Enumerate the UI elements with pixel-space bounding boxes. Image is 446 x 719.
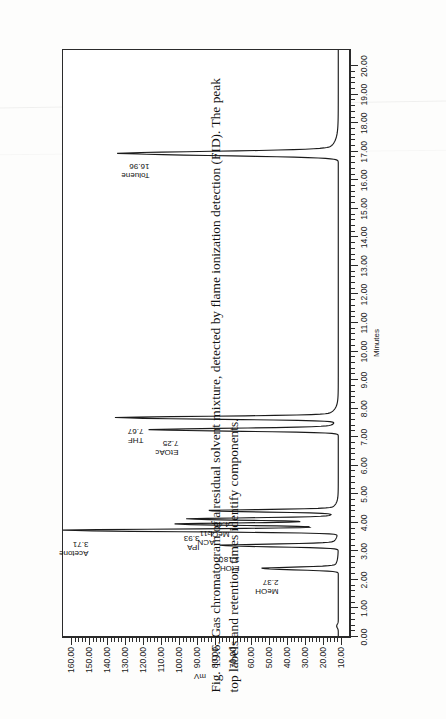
x-tick-minor (351, 556, 355, 557)
y-tick-label: 110.00 (156, 647, 166, 683)
x-tick-minor (351, 333, 355, 334)
y-tick-minor (298, 638, 299, 642)
x-tick-label: 14.00 (359, 227, 369, 249)
y-tick-label: 40.00 (282, 647, 292, 683)
y-tick-minor (255, 638, 256, 642)
y-axis-title: mV (194, 672, 206, 681)
y-tick-major (125, 638, 126, 645)
x-tick-minor (351, 282, 355, 283)
peak-name: Acetone (59, 549, 88, 558)
x-tick-major (351, 636, 358, 637)
x-tick-minor (351, 259, 355, 260)
y-tick-minor (193, 638, 194, 642)
peak-label-toluene: Toluene16.96 (121, 162, 149, 180)
x-tick-minor (351, 328, 355, 329)
x-tick-major (351, 179, 358, 180)
caption-line-1: Fig. 19.6. Gas chromatogram of a residua… (207, 3, 225, 693)
x-tick-minor (351, 356, 355, 357)
y-tick-major (143, 638, 144, 645)
x-tick-major (351, 236, 358, 237)
y-tick-minor (118, 638, 119, 642)
figure-caption: Fig. 19.6. Gas chromatogram of a residua… (207, 3, 242, 693)
x-tick-label: 4.00 (359, 514, 369, 531)
x-tick-label: 18.00 (359, 112, 369, 134)
x-tick-minor (351, 134, 355, 135)
x-tick-minor (351, 162, 355, 163)
y-tick-minor (265, 638, 266, 642)
y-tick-major (179, 638, 180, 645)
x-tick-label: 0.00 (359, 629, 369, 646)
x-tick-minor (351, 476, 355, 477)
y-tick-minor (147, 638, 148, 642)
y-tick-minor (78, 638, 79, 642)
peak-retention-time: 3.71 (59, 540, 88, 549)
peak-label-meoh: MeOH2.37 (256, 578, 279, 596)
x-tick-label: 6.00 (359, 457, 369, 474)
y-tick-label: 50.00 (264, 647, 274, 683)
x-tick-minor (351, 630, 355, 631)
y-tick-minor (183, 638, 184, 642)
x-tick-minor (351, 288, 355, 289)
peak-retention-time: 7.67 (128, 427, 144, 436)
x-tick-minor (351, 453, 355, 454)
y-tick-minor (273, 638, 274, 642)
x-tick-minor (351, 191, 355, 192)
x-tick-minor (351, 88, 355, 89)
x-tick-minor (351, 448, 355, 449)
x-tick-minor (351, 117, 355, 118)
x-tick-minor (351, 145, 355, 146)
y-tick-minor (330, 638, 331, 642)
y-tick-minor (154, 638, 155, 642)
x-tick-minor (351, 459, 355, 460)
x-tick-minor (351, 396, 355, 397)
y-tick-major (71, 638, 72, 645)
peak-name: EtOAc (155, 448, 178, 457)
x-tick-minor (351, 214, 355, 215)
y-tick-minor (114, 638, 115, 642)
x-tick-major (351, 322, 358, 323)
x-tick-minor (351, 442, 355, 443)
y-tick-minor (132, 638, 133, 642)
peak-name: MeOH (256, 588, 279, 597)
x-tick-minor (351, 311, 355, 312)
y-tick-minor (334, 638, 335, 642)
x-tick-label: 5.00 (359, 486, 369, 503)
y-tick-minor (93, 638, 94, 642)
y-tick-major (197, 638, 198, 645)
x-tick-major (351, 94, 358, 95)
y-tick-major (161, 638, 162, 645)
x-tick-minor (351, 316, 355, 317)
x-tick-minor (351, 362, 355, 363)
x-tick-label: 8.00 (359, 400, 369, 417)
x-tick-major (351, 408, 358, 409)
peak-label-thf: THF7.67 (128, 427, 144, 445)
x-tick-minor (351, 385, 355, 386)
x-tick-minor (351, 105, 355, 106)
x-tick-minor (351, 516, 355, 517)
y-tick-label: 130.00 (120, 647, 130, 683)
peak-label-acetone: Acetone3.71 (59, 540, 88, 558)
x-tick-minor (351, 373, 355, 374)
x-axis-line (350, 49, 351, 637)
x-tick-minor (351, 619, 355, 620)
x-tick-label: 1.00 (359, 600, 369, 617)
y-tick-minor (309, 638, 310, 642)
x-tick-minor (351, 562, 355, 563)
peak-name: THF (128, 436, 144, 445)
x-tick-minor (351, 174, 355, 175)
y-tick-label: 140.00 (102, 647, 112, 683)
y-tick-major (341, 638, 342, 645)
x-tick-major (351, 465, 358, 466)
x-tick-major (351, 522, 358, 523)
y-tick-minor (103, 638, 104, 642)
x-tick-major (351, 579, 358, 580)
x-tick-label: 16.00 (359, 169, 369, 191)
x-tick-minor (351, 111, 355, 112)
x-tick-minor (351, 505, 355, 506)
x-tick-minor (351, 231, 355, 232)
y-tick-major (323, 638, 324, 645)
x-tick-minor (351, 345, 355, 346)
x-tick-minor (351, 596, 355, 597)
x-tick-major (351, 379, 358, 380)
caption-line-2: top labels and retention times identify … (224, 3, 242, 693)
